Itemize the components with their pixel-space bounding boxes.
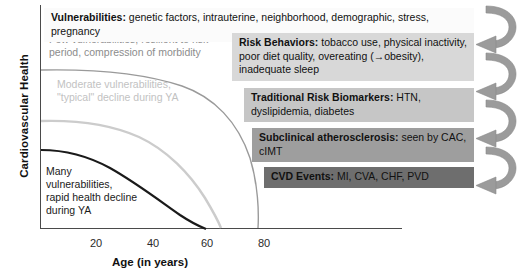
progression-arrows	[470, 0, 520, 200]
x-axis-line	[40, 228, 402, 229]
cardiovascular-health-figure: Cardiovascular Health 20 40 60 80 Age (i…	[0, 0, 520, 277]
banner-subclinical-heading: Subclinical atherosclerosis:	[259, 131, 398, 143]
banner-cvd-events-body: MI, CVA, CHF, PVD	[334, 170, 429, 182]
curved-arrow-3-icon	[476, 100, 516, 147]
banner-risk-behaviors-heading: Risk Behaviors:	[239, 36, 318, 48]
x-tick-20: 20	[90, 237, 102, 249]
banner-vulnerabilities-heading: Vulnerabilities:	[51, 11, 126, 23]
curve-label-moderate-vulnerabilities: Moderate vulnerabilities, "typical" decl…	[57, 78, 178, 104]
banner-risk-behaviors: Risk Behaviors: tobacco use, physical in…	[232, 33, 474, 81]
x-axis-title: Age (in years)	[112, 256, 188, 268]
y-axis-line	[40, 5, 41, 229]
curved-arrow-2-icon	[476, 53, 516, 100]
x-tick-40: 40	[147, 237, 159, 249]
banner-subclinical-atherosclerosis: Subclinical atherosclerosis: seen by CAC…	[252, 128, 474, 162]
banner-cvd-events-heading: CVD Events:	[271, 170, 334, 182]
curved-arrow-4-icon	[476, 147, 516, 194]
curve-label-many-vulnerabilities: Many vulnerabilities, rapid health decli…	[46, 165, 137, 217]
banner-traditional-risk-biomarkers: Traditional Risk Biomarkers: HTN, dyslip…	[244, 88, 474, 122]
banner-biomarkers-heading: Traditional Risk Biomarkers:	[251, 91, 393, 103]
x-tick-80: 80	[258, 237, 270, 249]
y-axis-title: Cardiovascular Health	[18, 6, 30, 226]
curved-arrow-1-icon	[476, 6, 516, 53]
x-tick-60: 60	[201, 237, 213, 249]
banner-cvd-events: CVD Events: MI, CVA, CHF, PVD	[264, 167, 474, 188]
